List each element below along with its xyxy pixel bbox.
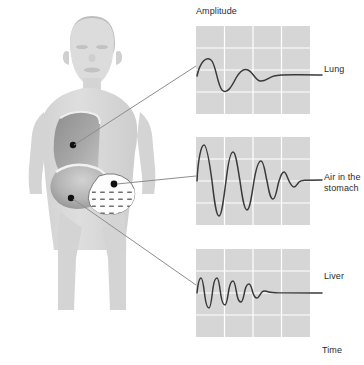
liver-probe-point [68, 195, 74, 201]
head-shape [70, 18, 114, 85]
plot-panel-stomach [196, 137, 322, 225]
trace-label-air-in-the-stomach: Air in the stomach [324, 172, 361, 194]
eye-right [96, 45, 108, 49]
lung-probe-point [70, 142, 76, 148]
hips-shape [58, 212, 82, 310]
arm-left [29, 112, 47, 194]
plot-panel-liver [196, 249, 322, 337]
ultrasound-diagram [0, 0, 364, 365]
mouth-shape [84, 68, 100, 73]
leg-right [102, 212, 126, 310]
stomach-probe-point [111, 181, 118, 188]
eye-left [76, 45, 88, 49]
plot-panel-lung [196, 26, 322, 114]
ear-right [116, 51, 122, 65]
human-torso-figure [29, 16, 196, 310]
nose-shape [89, 54, 96, 62]
trace-label-liver: Liver [324, 271, 344, 282]
ear-left [63, 51, 69, 65]
trace-label-lung: Lung [324, 64, 344, 75]
x-axis-label: Time [322, 345, 342, 356]
y-axis-label: Amplitude [196, 6, 237, 17]
